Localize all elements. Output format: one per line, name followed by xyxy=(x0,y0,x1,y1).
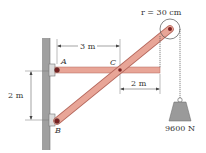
label-a: A xyxy=(60,57,67,66)
truss-diagram: 3 m 2 m 2 m A B C r = 30 cm 9600 N xyxy=(0,0,206,153)
label-c: C xyxy=(110,58,116,67)
radius-label: r = 30 cm xyxy=(141,8,182,17)
label-b: B xyxy=(54,126,61,135)
weight-label: 9600 N xyxy=(165,124,195,133)
pin-c xyxy=(118,68,122,72)
dim-c-end-label: 2 m xyxy=(131,79,147,88)
dim-ac-label: 3 m xyxy=(80,42,96,51)
pin-a xyxy=(55,68,60,73)
beam-horizontal xyxy=(55,67,160,73)
pin-b xyxy=(55,119,60,124)
wall xyxy=(42,38,50,150)
dim-ab-label: 2 m xyxy=(8,91,24,100)
weight-block xyxy=(169,102,191,121)
bracket-a xyxy=(49,64,55,76)
